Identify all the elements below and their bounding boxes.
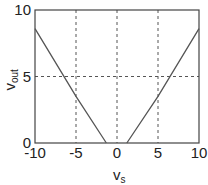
y-tick-label: 0: [23, 134, 31, 151]
x-tick-label: -5: [69, 144, 82, 161]
x-tick-label: 5: [154, 144, 162, 161]
data-line-right: [127, 29, 199, 143]
x-axis-title: vs: [113, 166, 126, 185]
data-line-left: [35, 29, 106, 143]
y-tick-label: 10: [14, 1, 31, 18]
y-tick-label: 5: [23, 68, 31, 85]
y-axis-title: vout: [1, 69, 20, 91]
x-tick-label: 10: [191, 144, 208, 161]
x-tick-label: 0: [113, 144, 121, 161]
chart: -10-505100510vsvout: [0, 0, 208, 185]
